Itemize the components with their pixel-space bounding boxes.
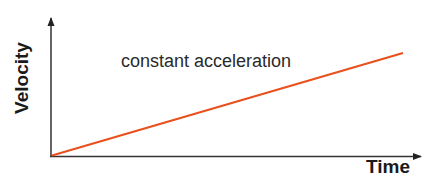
x-axis-label: Time: [366, 156, 410, 178]
line-annotation: constant acceleration: [121, 51, 291, 72]
y-axis-label: Velocity: [2, 18, 42, 138]
y-axis-label-text: Velocity: [11, 42, 33, 114]
